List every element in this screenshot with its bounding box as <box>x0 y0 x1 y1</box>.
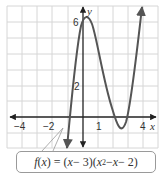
x-tick-neg2: −2 <box>43 121 55 132</box>
y-tick-6: 6 <box>73 17 79 28</box>
callout-text: ) = ( <box>47 155 68 170</box>
y-axis-label: y <box>86 5 92 17</box>
y-tick-2: 2 <box>74 81 80 92</box>
callout-text: − 3)( <box>73 155 97 170</box>
function-curve <box>67 7 142 148</box>
x-tick-1: 1 <box>96 121 102 132</box>
x-axis-label: x <box>149 120 155 132</box>
callout-text: − <box>106 155 113 170</box>
x-tick-4: 4 <box>140 121 146 132</box>
function-label-callout: f(x) = (x − 3)(x2 − x − 2) <box>16 151 156 173</box>
callout-text: − 2) <box>118 155 138 170</box>
x-tick-neg4: −4 <box>14 121 26 132</box>
